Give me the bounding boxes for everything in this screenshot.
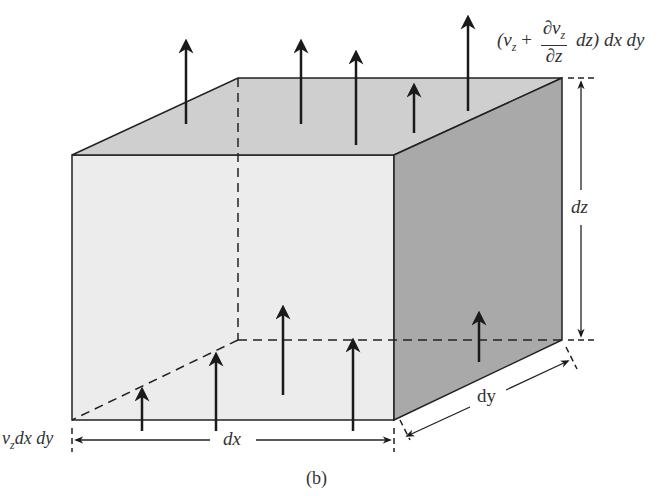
front-face [72, 155, 394, 420]
dy-dimension-upper [506, 361, 568, 390]
top-flux-prefix: (v [497, 29, 512, 50]
figure-caption: (b) [306, 468, 327, 489]
top-flux-label: (vz + ∂vz ∂z dz) dx dy [497, 18, 645, 66]
dy-dimension-lower [407, 407, 470, 436]
top-flux-plus: + [516, 29, 531, 50]
control-volume-cube [0, 0, 667, 496]
top-flux-suffix: dz) dx dy [576, 29, 645, 50]
fraction-numerator: ∂vz [541, 18, 568, 46]
fraction-denominator: ∂z [541, 46, 568, 66]
dy-label: dy [477, 385, 496, 407]
bottom-flux-rest: dx dy [15, 428, 53, 448]
numerator-text: ∂v [543, 17, 561, 38]
numerator-sub: z [560, 28, 565, 42]
dz-label: dz [571, 196, 588, 218]
dx-label: dx [223, 428, 241, 450]
partial-derivative-fraction: ∂vz ∂z [541, 18, 568, 66]
bottom-flux-v: v [2, 428, 10, 448]
bottom-flux-label: vzdx dy [2, 428, 53, 453]
